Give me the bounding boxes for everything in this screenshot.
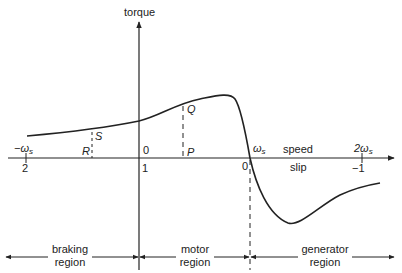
tick-label-neg-ws: −ωs [14,142,33,156]
point-p-label: P [187,146,195,158]
generator-region-label-1: generator [301,243,348,255]
slip-label-2: 2 [22,162,28,174]
braking-region-label-2: region [55,256,86,268]
slip-label-1: 1 [142,162,148,174]
torque-speed-diagram: torque speed slip −ωs 0 ωs 2ωs 2 1 0 −1 … [0,0,402,273]
motor-region-label-1: motor [181,243,209,255]
braking-region-label-1: braking [52,243,88,255]
point-s-label: S [95,130,103,142]
slip-axis-label: slip [290,161,307,173]
generator-region-label-2: region [310,256,341,268]
tick-label-2ws: 2ωs [353,142,373,156]
point-r-label: R [82,145,90,157]
slip-label-neg1: −1 [352,162,365,174]
tick-label-ws: ωs [253,142,266,156]
speed-axis-label: speed [283,143,313,155]
torque-curve [27,95,380,223]
slip-label-0: 0 [242,160,248,172]
torque-axis-label: torque [124,6,155,18]
motor-region-label-2: region [180,256,211,268]
point-q-label: Q [187,103,196,115]
tick-label-zero-speed: 0 [143,144,149,156]
